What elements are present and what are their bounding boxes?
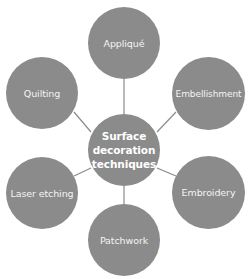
- center-line-3: techniques: [92, 157, 156, 171]
- node-patchwork: Patchwork: [88, 204, 160, 276]
- connector-embellishment: [157, 112, 176, 132]
- connector-laser-etching: [74, 168, 91, 176]
- surface-decoration-diagram: Surface decoration techniques Appliqué E…: [0, 0, 251, 279]
- node-embellishment: Embellishment: [172, 57, 245, 130]
- node-laser-etching: Laser etching: [6, 157, 78, 229]
- node-applique: Appliqué: [88, 7, 160, 79]
- node-label: Quilting: [24, 88, 60, 99]
- connector-embroidery: [157, 168, 176, 176]
- connector-quilting: [74, 112, 91, 132]
- node-label: Laser etching: [10, 188, 73, 199]
- node-label: Embroidery: [182, 187, 236, 198]
- node-label: Embellishment: [176, 89, 242, 99]
- center-node: Surface decoration techniques: [88, 114, 160, 186]
- node-label: Patchwork: [100, 235, 148, 246]
- node-embroidery: Embroidery: [172, 156, 245, 229]
- center-line-1: Surface: [92, 129, 156, 143]
- node-quilting: Quilting: [6, 57, 78, 129]
- node-label: Appliqué: [104, 38, 145, 49]
- center-line-2: decoration: [92, 143, 156, 157]
